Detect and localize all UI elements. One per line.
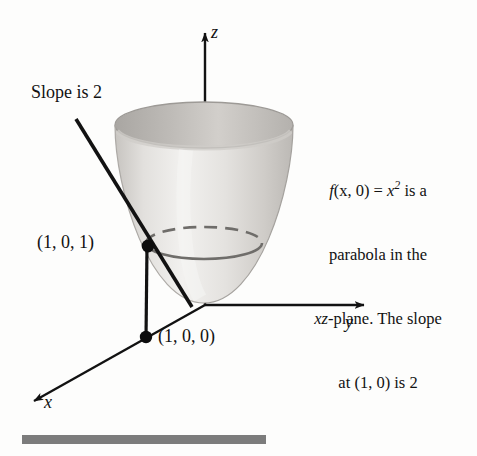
annotation-line-4: at (1, 0) is 2 <box>290 372 466 393</box>
annotation-line-3: xz-plane. The slope <box>290 308 466 329</box>
paraboloid-surface <box>115 102 293 303</box>
annotation-line-2: parabola in the <box>290 244 466 265</box>
axis-label-z: z <box>211 22 218 43</box>
annotation-line-1-suffix: is a <box>400 180 427 199</box>
axis-label-x: x <box>44 392 52 413</box>
vertical-drop-segment <box>146 246 147 338</box>
annotation-line-3-rest: -plane. The slope <box>328 309 442 328</box>
paraboloid-body <box>115 125 293 303</box>
axis-x <box>34 305 205 401</box>
point-marker-1-0-0 <box>140 331 152 343</box>
annotation-text-block: f(x, 0) = x2 is a parabola in the xz-pla… <box>290 135 466 437</box>
annotation-plane-name: xz <box>314 309 328 328</box>
figure-container: z y x Slope is 2 (1, 0, 1) (1, 0, 0) f(x… <box>0 0 477 456</box>
x-axis-line <box>34 305 205 401</box>
point-marker-1-0-1 <box>142 240 155 253</box>
bottom-gray-rule <box>22 435 266 444</box>
slope-callout-label: Slope is 2 <box>31 82 102 103</box>
point-label-1-0-1: (1, 0, 1) <box>37 232 94 253</box>
point-label-1-0-0: (1, 0, 0) <box>158 326 215 347</box>
annotation-function-args: (x, 0) = <box>334 180 387 199</box>
annotation-line-1: f(x, 0) = x2 is a <box>290 178 466 201</box>
